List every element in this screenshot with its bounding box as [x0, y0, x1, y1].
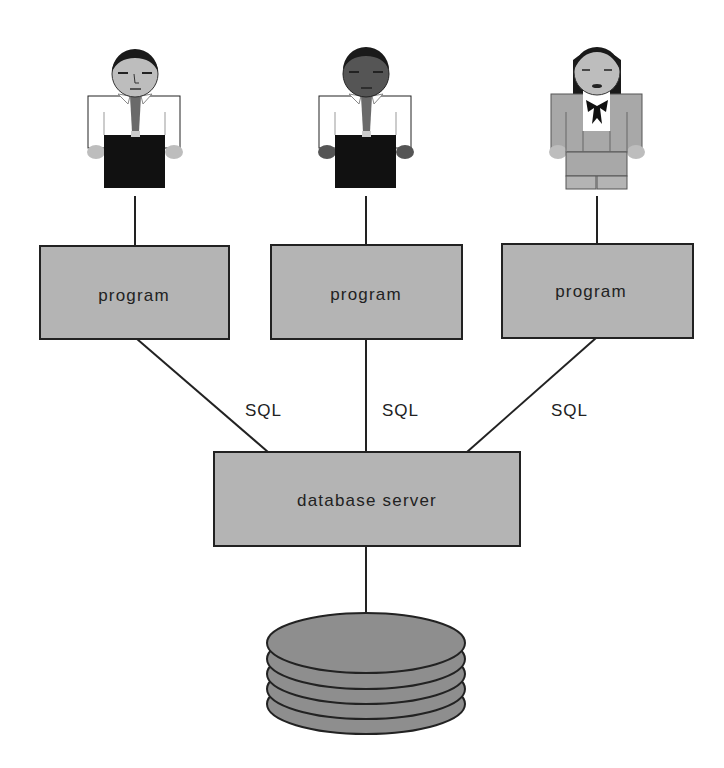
client-server-diagram: program program program SQL SQL SQL data…	[0, 0, 724, 768]
sql-line-1	[137, 339, 268, 452]
program-box-3: program	[502, 244, 693, 338]
woman-icon	[549, 47, 645, 189]
program-label: program	[330, 285, 402, 304]
sql-line-3	[467, 338, 596, 452]
database-server-label: database server	[297, 491, 437, 510]
sql-label-3: SQL	[551, 401, 588, 420]
sql-label-2: SQL	[382, 401, 419, 420]
program-label: program	[98, 286, 170, 305]
sql-label-1: SQL	[245, 401, 282, 420]
man-dark-skin-icon	[318, 47, 414, 188]
program-box-1: program	[40, 246, 229, 339]
program-box-2: program	[271, 245, 462, 339]
user-connectors	[135, 196, 597, 246]
database-disk-stack-icon	[267, 613, 465, 734]
database-server-box: database server	[214, 452, 520, 546]
man-light-skin-icon	[87, 49, 183, 188]
program-label: program	[555, 282, 627, 301]
